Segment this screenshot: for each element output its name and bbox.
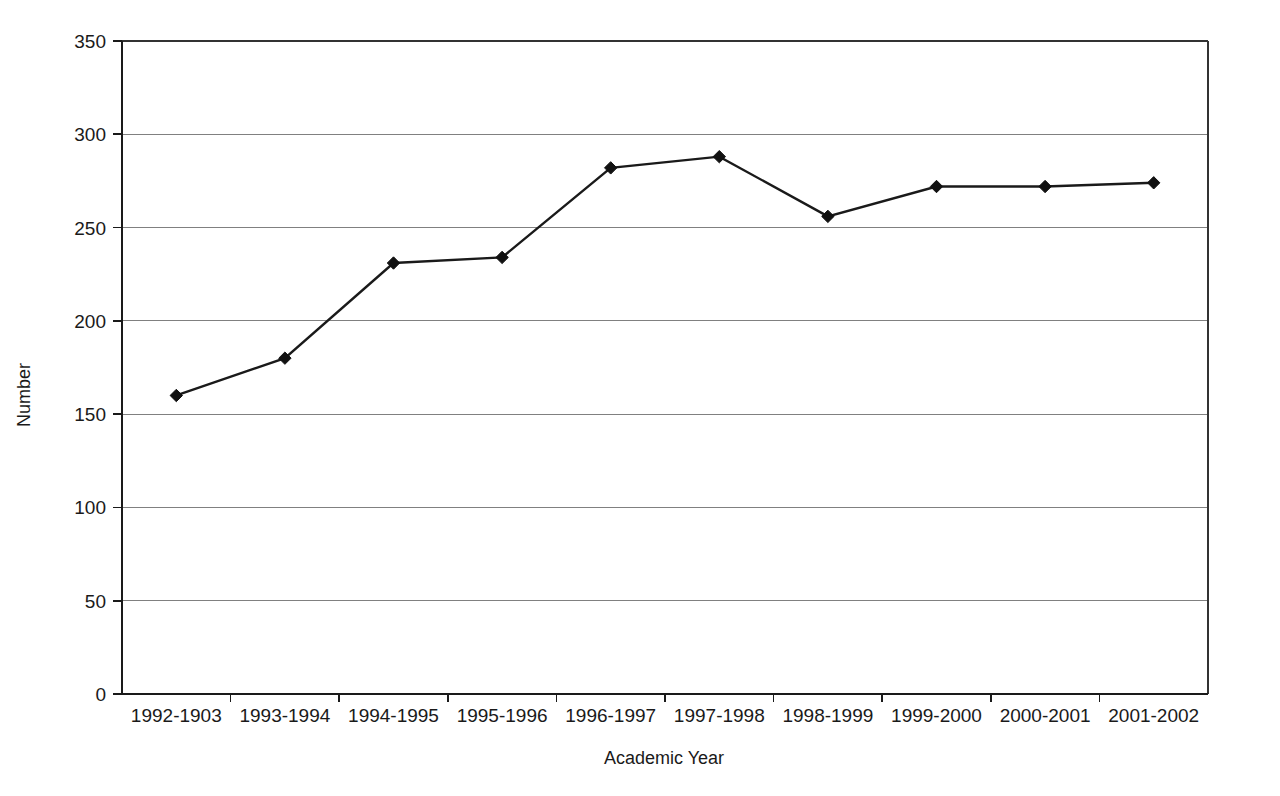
chart-background bbox=[0, 0, 1280, 796]
y-tick-label: 300 bbox=[74, 124, 106, 145]
x-tick-label: 1992-1903 bbox=[131, 705, 222, 726]
y-tick-label: 0 bbox=[95, 684, 106, 705]
x-tick-label: 1994-1995 bbox=[348, 705, 439, 726]
y-axis-title: Number bbox=[14, 363, 34, 427]
x-tick-label: 1996-1997 bbox=[565, 705, 656, 726]
line-chart: 050100150200250300350 1992-19031993-1994… bbox=[0, 0, 1280, 796]
x-tick-label: 1995-1996 bbox=[457, 705, 548, 726]
x-tick-label: 1993-1994 bbox=[239, 705, 330, 726]
x-axis-title: Academic Year bbox=[604, 748, 724, 768]
y-tick-label: 150 bbox=[74, 404, 106, 425]
y-tick-label: 100 bbox=[74, 497, 106, 518]
x-tick-label: 1998-1999 bbox=[782, 705, 873, 726]
x-tick-label: 2001-2002 bbox=[1108, 705, 1199, 726]
y-tick-label: 50 bbox=[85, 591, 106, 612]
x-tick-label: 1999-2000 bbox=[891, 705, 982, 726]
y-tick-label: 350 bbox=[74, 31, 106, 52]
y-tick-label: 200 bbox=[74, 311, 106, 332]
x-tick-label: 2000-2001 bbox=[1000, 705, 1091, 726]
x-tick-label: 1997-1998 bbox=[674, 705, 765, 726]
chart-container: 050100150200250300350 1992-19031993-1994… bbox=[0, 0, 1280, 796]
y-tick-label: 250 bbox=[74, 218, 106, 239]
